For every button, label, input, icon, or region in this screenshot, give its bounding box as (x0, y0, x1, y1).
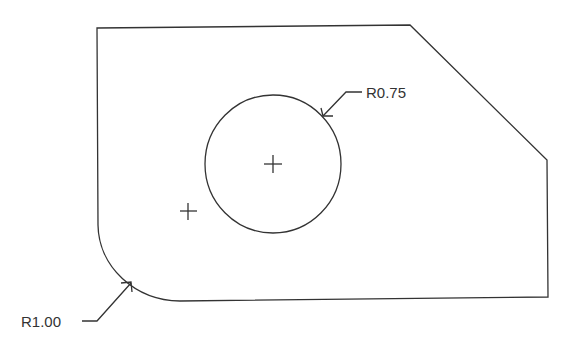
fillet-radius-leader (82, 282, 132, 321)
outer-profile (97, 25, 548, 301)
part-drawing: R0.75 R1.00 (0, 0, 571, 353)
hole-radius-label: R0.75 (366, 84, 406, 101)
hole-radius-leader (321, 92, 362, 116)
fillet-center-mark (180, 203, 197, 220)
hole-center-mark (264, 155, 282, 173)
fillet-radius-label: R1.00 (21, 313, 61, 330)
